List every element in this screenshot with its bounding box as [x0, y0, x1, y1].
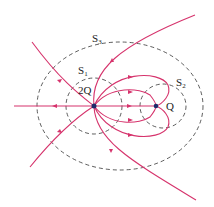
label-s2: S2 — [176, 76, 186, 90]
label-s1: S1 — [78, 64, 88, 78]
label-2q: 2Q — [78, 84, 92, 96]
label-q: Q — [166, 100, 174, 112]
charge-q — [154, 104, 159, 109]
label-s3: S3 — [92, 32, 102, 46]
field-line-diagram: S3 S1 2Q S2 Q — [0, 0, 214, 207]
charge-2q — [92, 104, 97, 109]
